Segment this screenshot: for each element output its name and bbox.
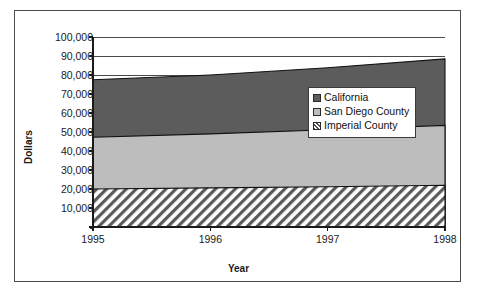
legend-label: Imperial County: [324, 119, 398, 133]
chart-plot-area: Dollars Year -10,00020,00030,00040,00050…: [15, 11, 462, 283]
legend-label: California: [324, 91, 368, 105]
legend-item[interactable]: Imperial County: [313, 119, 409, 133]
chart-legend: CaliforniaSan Diego CountyImperial Count…: [308, 87, 416, 138]
legend-swatch-icon: [313, 122, 321, 130]
chart-frame: Dollars Year -10,00020,00030,00040,00050…: [14, 10, 461, 282]
legend-item[interactable]: San Diego County: [313, 105, 409, 119]
legend-item[interactable]: California: [313, 91, 409, 105]
legend-label: San Diego County: [324, 105, 409, 119]
legend-swatch-icon: [313, 94, 321, 102]
stacked-area-plot: [15, 11, 462, 283]
legend-swatch-icon: [313, 108, 321, 116]
